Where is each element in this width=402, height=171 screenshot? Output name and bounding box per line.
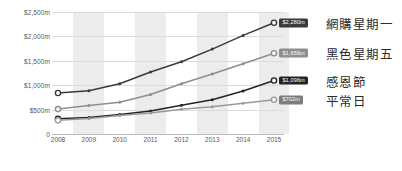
legend-item-2: 感恩節: [326, 71, 366, 90]
series-3: [55, 97, 276, 123]
y-tick-label: $2,000m: [4, 33, 50, 40]
series-start-marker: [55, 118, 60, 123]
gridline-0: [52, 134, 284, 135]
series-point-marker: [211, 105, 214, 108]
x-axis: 20082009201020112012201320142015: [52, 136, 284, 150]
series-point-marker: [87, 104, 90, 107]
x-tick-label-2011: 2011: [144, 136, 158, 143]
series-line: [58, 23, 274, 93]
y-tick-label: $1,000m: [4, 82, 50, 89]
x-tick-label-2008: 2008: [51, 136, 65, 143]
series-point-marker: [87, 89, 90, 92]
series-start-marker: [55, 107, 60, 112]
series-line: [58, 53, 274, 109]
x-tick-label-2010: 2010: [112, 136, 126, 143]
series-point-marker: [211, 48, 214, 51]
y-axis: 0$500m$1,000m$1,500m$2,000m$2,500m: [0, 12, 50, 134]
series-lines: [52, 12, 284, 134]
x-tick-label-2012: 2012: [174, 136, 188, 143]
legend-item-0: 網購星期一: [326, 13, 393, 32]
series-point-marker: [242, 102, 245, 105]
series-point-marker: [149, 112, 152, 115]
series-point-marker: [211, 98, 214, 101]
series-point-marker: [242, 90, 245, 93]
series-end-marker: [271, 78, 276, 83]
y-tick-label: 0: [4, 131, 50, 138]
series-point-marker: [118, 101, 121, 104]
series-point-marker: [118, 114, 121, 117]
series-end-marker: [271, 97, 276, 102]
series-point-marker: [180, 60, 183, 63]
line-chart: 0$500m$1,000m$1,500m$2,000m$2,500m 20082…: [0, 0, 402, 171]
legend-item-3: 平常日: [326, 90, 366, 109]
series-point-marker: [180, 82, 183, 85]
value-badge: $1,096m: [279, 76, 308, 85]
series-point-marker: [149, 71, 152, 74]
series-0: [55, 20, 276, 95]
legend-item-1: 黑色星期五: [326, 44, 393, 63]
value-badge: $2,280m: [279, 18, 308, 27]
series-2: [55, 78, 276, 122]
series-point-marker: [118, 82, 121, 85]
series-point-marker: [180, 104, 183, 107]
series-line: [58, 81, 274, 119]
series-point-marker: [180, 108, 183, 111]
y-tick-label: $500m: [4, 106, 50, 113]
series-start-marker: [55, 90, 60, 95]
series-point-marker: [211, 72, 214, 75]
series-point-marker: [242, 34, 245, 37]
x-tick-label-2015: 2015: [267, 136, 281, 143]
value-badge: $1,656m: [279, 49, 308, 58]
x-tick-label-2013: 2013: [205, 136, 219, 143]
series-end-marker: [271, 20, 276, 25]
series-point-marker: [87, 117, 90, 120]
series-point-marker: [242, 62, 245, 65]
y-tick-label: $2,500m: [4, 9, 50, 16]
x-tick-label-2009: 2009: [82, 136, 96, 143]
series-end-marker: [271, 51, 276, 56]
plot-area: [52, 12, 284, 134]
y-tick-label: $1,500m: [4, 57, 50, 64]
x-tick-label-2014: 2014: [236, 136, 250, 143]
value-badge: $702m: [279, 95, 303, 104]
series-point-marker: [149, 93, 152, 96]
